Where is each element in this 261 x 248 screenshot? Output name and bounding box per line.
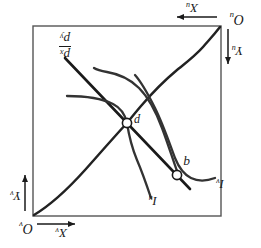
indifference-curve-u (67, 96, 151, 198)
axis-y-u-label: Yu (232, 44, 243, 59)
price-ratio-denominator: py (59, 32, 71, 47)
indifference-curve-u-label: Iu (149, 194, 157, 209)
axis-x-u-label: Xu (186, 1, 198, 16)
point-p-marker (122, 118, 131, 127)
edgeworth-box-figure: Ou Xu Yu Ov Xv Yv Iv Iu q p (0, 0, 261, 248)
rotated-figure-layer: Ou Xu Yu Ov Xv Yv Iv Iu q p (0, 0, 261, 248)
axis-y-v-arrowhead (22, 175, 28, 182)
axis-x-u-arrowhead (177, 14, 184, 20)
indifference-curve-v-label: Iv (216, 177, 224, 192)
origin-v-label: Ov (19, 221, 33, 235)
price-ratio-numerator: px (59, 46, 71, 62)
axis-y-u-arrowhead (225, 57, 231, 64)
figure-canvas (0, 0, 261, 248)
axis-x-v-arrowhead (68, 221, 75, 227)
axis-x-v-label: Xv (55, 226, 67, 241)
axis-y-v-label: Yv (10, 189, 21, 204)
point-q-label: q (184, 157, 191, 170)
origin-u-label: Ou (230, 12, 244, 26)
point-q-marker (172, 170, 181, 179)
point-p-label: p (134, 115, 140, 127)
price-ratio-label: px py (59, 32, 71, 62)
